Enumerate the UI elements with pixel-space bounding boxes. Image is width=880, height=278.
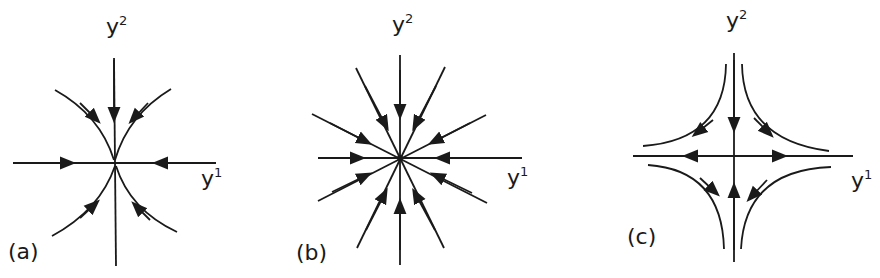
panel-c-diagram: [633, 53, 853, 262]
panel-a-diagram: [13, 58, 216, 266]
panel-b-y2-axis-label: y2: [392, 14, 413, 36]
panel-b-caption: (b): [296, 242, 327, 264]
panel-c-y2-axis-label: y2: [726, 10, 747, 32]
panel-b-diagram: [312, 55, 522, 265]
panel-c-caption: (c): [627, 226, 656, 248]
panel-c-y1-axis-label: y1: [851, 170, 872, 192]
panel-b-y1-axis-label: y1: [507, 167, 528, 189]
phase-portraits: [0, 0, 880, 278]
panel-a-y2-axis-label: y2: [106, 16, 127, 38]
panel-a-y1-axis-label: y1: [201, 168, 222, 190]
panel-a-caption: (a): [8, 241, 39, 263]
